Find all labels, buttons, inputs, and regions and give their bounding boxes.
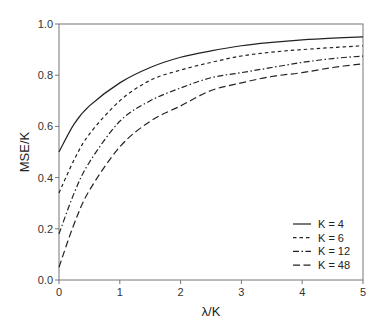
x-tick-label: 5	[360, 286, 366, 298]
legend-label: K = 48	[318, 259, 350, 271]
y-axis-title: MSE/K	[17, 131, 32, 172]
series-line-k6	[59, 46, 363, 193]
y-tick-label: 0.0	[38, 274, 53, 286]
line-chart: 0.00.20.40.60.81.0 012345 λ/K MSE/K K = …	[0, 0, 383, 330]
x-tick-label: 1	[117, 286, 123, 298]
x-tick-label: 4	[299, 286, 305, 298]
x-tick-label: 0	[56, 286, 62, 298]
series-line-k12	[59, 56, 363, 234]
y-tick-label: 0.2	[38, 223, 53, 235]
legend-label: K = 12	[318, 245, 350, 257]
x-tick-label: 2	[178, 286, 184, 298]
y-tick-label: 0.4	[38, 172, 53, 184]
legend-label: K = 4	[318, 218, 344, 230]
series-line-k4	[59, 37, 363, 152]
y-tick-label: 1.0	[38, 18, 53, 30]
x-axis: 012345	[56, 280, 366, 298]
y-tick-label: 0.8	[38, 69, 53, 81]
legend: K = 4K = 6K = 12K = 48	[293, 218, 350, 271]
x-tick-label: 3	[238, 286, 244, 298]
y-tick-label: 0.6	[38, 120, 53, 132]
x-axis-title: λ/K	[202, 304, 221, 319]
y-axis: 0.00.20.40.60.81.0	[38, 18, 59, 286]
legend-label: K = 6	[318, 232, 344, 244]
